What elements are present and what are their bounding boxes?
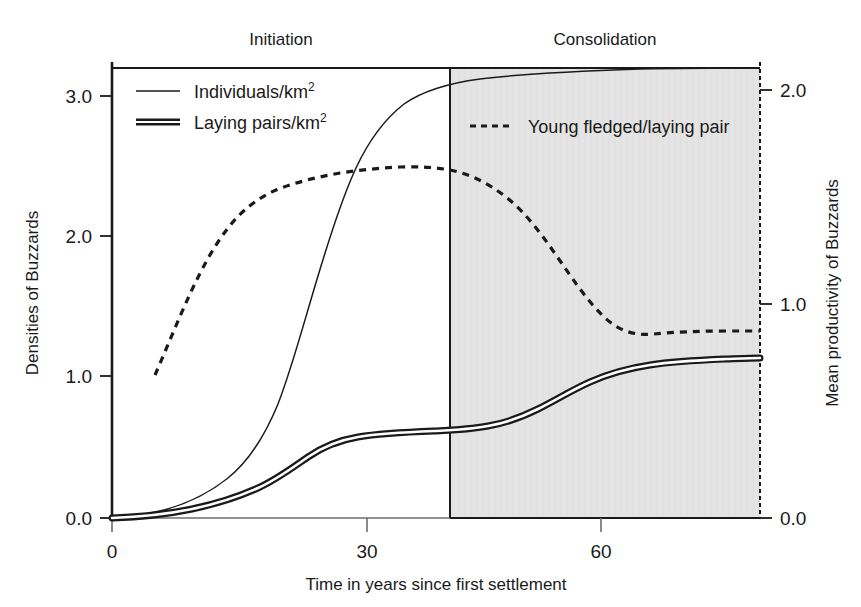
- ytick-label-0: 0.0: [66, 508, 92, 529]
- x-axis-ticks: [112, 518, 601, 532]
- y-axis-title: Densities of Buzzards: [23, 211, 42, 375]
- x-axis-title: Time in years since first settlement: [305, 575, 566, 594]
- xtick-label-30: 30: [356, 541, 377, 562]
- phase-label-initiation: Initiation: [249, 30, 312, 49]
- ytick-label-3: 3.0: [66, 86, 92, 107]
- ytick-label-1: 1.0: [66, 366, 92, 387]
- xtick-label-0: 0: [107, 541, 118, 562]
- figure-caption-strip: [0, 596, 861, 607]
- right-axis-ticks: [760, 90, 772, 518]
- legend-label-individuals: Individuals/km2: [194, 80, 315, 102]
- y2tick-label-2: 2.0: [780, 80, 806, 101]
- ytick-label-2: 2.0: [66, 226, 92, 247]
- chart-svg: 3.0 2.0 1.0 0.0 2.0 1.0 0.0 0 30 60 Time…: [0, 0, 861, 607]
- buzzard-population-chart: 3.0 2.0 1.0 0.0 2.0 1.0 0.0 0 30 60 Time…: [0, 0, 861, 607]
- y2-axis-title: Mean productivity of Buzzards: [823, 179, 842, 407]
- phase-label-consolidation: Consolidation: [553, 30, 656, 49]
- left-axis-ticks: [100, 96, 112, 518]
- xtick-label-60: 60: [590, 541, 611, 562]
- legend-label-young-fledged: Young fledged/laying pair: [528, 117, 730, 137]
- y2tick-label-0: 0.0: [780, 508, 806, 529]
- legend-label-laying-pairs: Laying pairs/km2: [194, 111, 327, 133]
- y2tick-label-1: 1.0: [780, 294, 806, 315]
